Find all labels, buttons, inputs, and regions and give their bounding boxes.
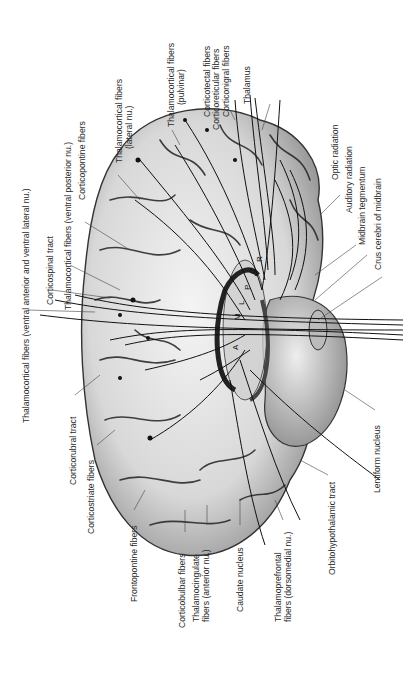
label-corticospinal-tract: Corticospinal tract xyxy=(45,236,55,305)
label-corticopontine-fibers: Corticopontine fibers xyxy=(77,121,87,200)
letter-R: R xyxy=(255,256,264,262)
label-thalamoprefrontal-fibers: Thalamoprefrontalfibers (dorsomedial nu.… xyxy=(273,532,293,622)
label-frontopontine-fibers: Frontopontine fibers xyxy=(129,526,139,602)
label-orbitohypothalamic-tract: Orbitohypothalamic tract xyxy=(327,482,337,575)
label-optic-radiation: Optic radiation xyxy=(330,125,340,180)
label-thalamocortical-va-vl: Thalamocortical fibers (ventral anterior… xyxy=(21,188,31,423)
label-auditory-radiation: Auditory radiation xyxy=(344,146,354,213)
label-corticonigral-fibers: Corticonigral fibers xyxy=(221,45,231,117)
label-corticobulbar-fibers: Corticobulbar fibers xyxy=(177,553,187,628)
brain-fiber-diagram: A M L P C R Thalamocortical fibers (vent… xyxy=(0,0,403,681)
label-thalamocortical-vp: Thalamocortical fibers (ventral posterio… xyxy=(63,142,73,310)
label-midbrain-tegmentum: Midbrain tegmentum xyxy=(357,167,367,245)
letter-C: C xyxy=(248,268,257,274)
label-crus-cerebri: Crus cerebri of midbrain xyxy=(373,178,383,270)
letter-A: A xyxy=(231,344,240,350)
letter-L: L xyxy=(237,300,246,305)
label-thalamus: Thalamus xyxy=(242,66,252,104)
label-thalamocortical-lateral: Thalamocortical fibers(lateral nu.) xyxy=(114,79,134,163)
label-thalamocortical-pulvinar: Thalamocortical fibers(pulvinar) xyxy=(166,43,186,127)
letter-M: M xyxy=(233,313,242,320)
label-corticostriate-fibers: Corticostriate fibers xyxy=(86,460,96,534)
label-corticoreticular-fibers: Corticoreticular fibers xyxy=(211,49,221,130)
label-thalamocingulate-fibers: Thalamocingulatefibers (anterior nu.) xyxy=(191,549,211,622)
label-caudate-nucleus: Caudate nucleus xyxy=(235,548,245,613)
letter-P: P xyxy=(243,285,252,290)
label-corticorubral-tract: Corticorubral tract xyxy=(68,417,78,485)
label-lentiform-nucleus: Lentiform nucleus xyxy=(372,425,382,493)
